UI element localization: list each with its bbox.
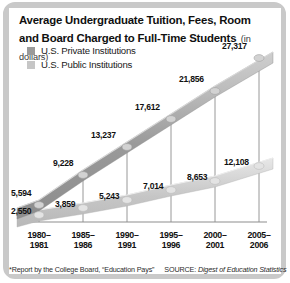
value-label-private-1990: 13,237 <box>91 130 116 140</box>
chart-footer: *Report by the College Board, “Education… <box>9 262 281 276</box>
infographic-frame: Average Undergraduate Tuition, Fees, Roo… <box>0 0 290 283</box>
value-label-private-2005: 27,317 <box>222 41 247 51</box>
x-tick-1980-line1: 1980– <box>28 230 51 240</box>
value-label-public-1980: 2,550 <box>11 206 31 216</box>
x-tick-2005-line1: 2005– <box>248 230 271 240</box>
source-prefix: SOURCE: <box>164 265 198 274</box>
value-label-public-1995: 7,014 <box>143 181 163 191</box>
x-tick-2005-line2: 2006 <box>250 240 268 250</box>
source-publication: Digest of Education Statistics <box>198 265 287 274</box>
x-tick-1995-line2: 1996 <box>162 240 180 250</box>
x-tick-2000-line2: 2001 <box>206 240 224 250</box>
plot-area: 5,594 9,228 13,237 17,612 21,856 27,317 … <box>9 8 281 258</box>
x-tick-2000: 2000– 2001 <box>193 230 237 250</box>
x-tick-1980-line2: 1981 <box>30 240 48 250</box>
x-tick-1995-line1: 1995– <box>160 230 183 240</box>
x-tick-1995: 1995– 1996 <box>149 230 193 250</box>
x-tick-1985-line1: 1985– <box>72 230 95 240</box>
x-tick-1985: 1985– 1986 <box>61 230 105 250</box>
value-label-public-1985: 3,859 <box>55 199 75 209</box>
x-axis-labels: 1980– 1981 1985– 1986 1990– 1991 1995– 1… <box>9 230 281 258</box>
value-label-private-1995: 17,612 <box>135 102 160 112</box>
value-label-private-2000: 21,856 <box>179 74 204 84</box>
footnote-text: *Report by the College Board, “Education… <box>9 265 154 274</box>
chart-canvas: Average Undergraduate Tuition, Fees, Roo… <box>9 8 281 274</box>
x-tick-1990-line1: 1990– <box>116 230 139 240</box>
value-label-private-1980: 5,594 <box>11 188 31 198</box>
value-label-public-2005: 12,108 <box>224 157 249 167</box>
x-tick-1990: 1990– 1991 <box>105 230 149 250</box>
x-tick-1990-line2: 1991 <box>118 240 136 250</box>
x-tick-2005: 2005– 2006 <box>237 230 281 250</box>
source-credit: SOURCE: Digest of Education Statistics <box>164 265 286 274</box>
value-label-public-2000: 8,653 <box>187 172 207 182</box>
x-tick-2000-line1: 2000– <box>204 230 227 240</box>
value-label-private-1985: 9,228 <box>53 158 73 168</box>
x-tick-1980: 1980– 1981 <box>17 230 61 250</box>
x-tick-1985-line2: 1986 <box>74 240 92 250</box>
value-label-public-1990: 5,243 <box>99 191 119 201</box>
